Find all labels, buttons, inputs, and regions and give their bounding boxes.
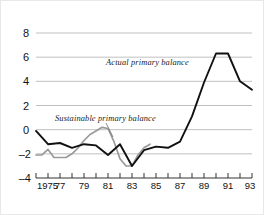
x-axis-labels: 1975 77 79 81 83 85 87 89 91 93 xyxy=(37,180,255,191)
y-tick-label-4: 4 xyxy=(23,75,29,87)
y-tick-label-neg4: –4 xyxy=(19,172,31,184)
x-tick-label-93: 93 xyxy=(245,180,256,191)
x-tick-label-91: 91 xyxy=(223,180,234,191)
y-tick-label-neg2: –2 xyxy=(19,148,31,160)
series-line-sustainable-primary-balance xyxy=(36,127,150,166)
x-tick-label-81: 81 xyxy=(103,180,114,191)
x-tick-label-83: 83 xyxy=(127,180,138,191)
annotation-actual-primary-balance: Actual primary balance xyxy=(105,58,189,67)
x-tick-marks xyxy=(36,173,252,178)
x-tick-label-85: 85 xyxy=(151,180,162,191)
x-tick-label-89: 89 xyxy=(199,180,210,191)
annotation-sustainable-primary-balance: Sustainable primary balance xyxy=(55,114,156,123)
y-tick-label-2: 2 xyxy=(23,100,29,112)
x-tick-label-87: 87 xyxy=(175,180,186,191)
y-tick-label-8: 8 xyxy=(23,27,29,39)
line-chart: 8 6 4 2 0 –2 –4 1975 77 79 81 83 85 87 8… xyxy=(1,1,264,215)
y-tick-label-6: 6 xyxy=(23,51,29,63)
y-axis-labels: 8 6 4 2 0 –2 –4 xyxy=(19,27,31,184)
gridlines xyxy=(36,33,252,154)
chart-figure: 8 6 4 2 0 –2 –4 1975 77 79 81 83 85 87 8… xyxy=(0,0,264,215)
x-tick-label-79: 79 xyxy=(79,180,90,191)
y-tick-label-0: 0 xyxy=(23,124,29,136)
x-tick-label-77: 77 xyxy=(55,180,66,191)
